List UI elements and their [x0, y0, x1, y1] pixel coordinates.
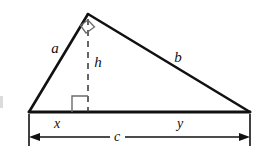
- foot-right-angle-icon: [72, 96, 88, 112]
- scan-artifact: [0, 96, 3, 108]
- label-segment-x: x: [54, 117, 60, 131]
- triangle-side-a: [29, 14, 88, 112]
- geometry-figure: a h b x y c: [0, 0, 270, 150]
- label-side-a: a: [51, 41, 59, 56]
- label-side-b: b: [174, 50, 182, 65]
- triangle-diagram: [0, 0, 270, 150]
- label-segment-y: y: [177, 117, 183, 131]
- dimension-arrow-left-icon: [29, 133, 40, 141]
- dimension-arrow-right-icon: [239, 133, 250, 141]
- label-altitude-h: h: [94, 55, 102, 70]
- triangle-side-b: [88, 14, 250, 112]
- label-base-c: c: [114, 130, 120, 144]
